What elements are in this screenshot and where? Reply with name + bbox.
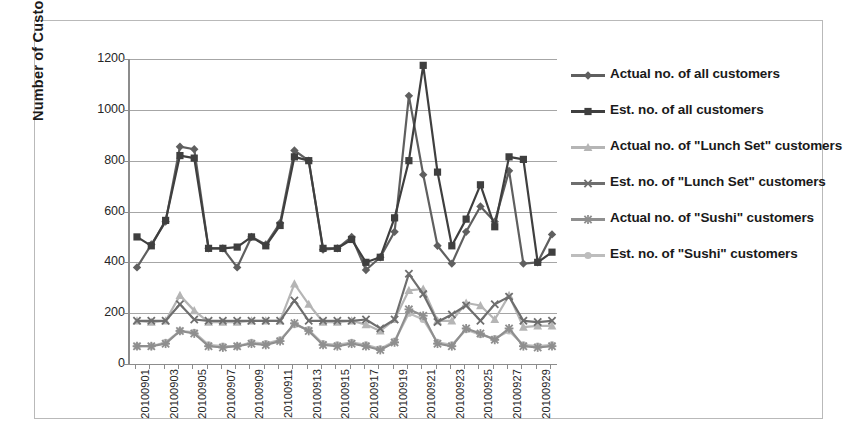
legend-marker-square-icon xyxy=(571,103,605,119)
x-tick-mark-20100903 xyxy=(164,364,165,369)
data-point xyxy=(390,338,399,347)
data-point xyxy=(162,217,169,224)
y-axis-title: Number of Customers xyxy=(30,0,46,121)
x-tick-mark-20100902 xyxy=(149,364,150,369)
data-point xyxy=(462,324,471,333)
x-tick-mark-20100910 xyxy=(264,364,265,369)
x-tick-mark-20100916 xyxy=(350,364,351,369)
x-tick-mark-20100914 xyxy=(321,364,322,369)
data-point xyxy=(176,301,183,308)
data-point xyxy=(334,245,341,252)
data-point xyxy=(290,279,299,287)
data-point xyxy=(462,228,470,236)
legend-item-est_sushi[interactable]: Est. no. of "Sushi" customers xyxy=(571,245,851,265)
x-tick-mark-20100918 xyxy=(378,364,379,369)
data-point xyxy=(548,230,556,238)
data-point xyxy=(419,311,428,320)
legend-label: Est. no. of all customers xyxy=(610,101,764,118)
x-tick-mark-20100917 xyxy=(364,364,365,369)
legend-marker-circle-icon xyxy=(571,247,605,263)
data-point xyxy=(434,169,441,176)
data-point xyxy=(405,92,413,100)
chart-legend: Actual no. of all customersEst. no. of a… xyxy=(571,65,851,281)
legend-marker-star-icon xyxy=(571,211,605,227)
data-point xyxy=(477,317,484,324)
data-point xyxy=(420,62,427,69)
x-tick-label-20100903: 20100903 xyxy=(168,369,180,419)
data-point xyxy=(191,155,198,162)
data-point xyxy=(133,233,140,240)
x-tick-label-20100919: 20100919 xyxy=(397,369,409,419)
data-point xyxy=(291,153,298,160)
legend-marker-glyph xyxy=(584,71,592,79)
legend-item-actual_all[interactable]: Actual no. of all customers xyxy=(571,65,851,85)
legend-marker-glyph xyxy=(584,215,593,224)
data-point xyxy=(147,342,156,351)
x-tick-mark-20100912 xyxy=(292,364,293,369)
data-point xyxy=(519,259,527,267)
x-tick-label-20100925: 20100925 xyxy=(482,369,494,419)
x-tick-mark-20100927 xyxy=(507,364,508,369)
x-tick-mark-20100929 xyxy=(536,364,537,369)
data-point xyxy=(534,259,541,266)
x-tick-label-20100927: 20100927 xyxy=(511,369,523,419)
data-point xyxy=(362,342,371,351)
data-point xyxy=(362,259,369,266)
legend-marker-glyph xyxy=(584,252,591,259)
series-layer xyxy=(130,59,559,364)
legend-label: Actual no. of "Lunch Set" customers xyxy=(610,137,842,154)
legend-item-est_lunch[interactable]: Est. no. of "Lunch Set" customers xyxy=(571,173,851,193)
x-tick-mark-20100907 xyxy=(221,364,222,369)
data-point xyxy=(548,249,555,256)
x-tick-mark-20100901 xyxy=(135,364,136,369)
legend-swatch-circle-icon xyxy=(571,247,605,263)
series-line xyxy=(137,65,552,262)
legend-item-actual_sushi[interactable]: Actual no. of "Sushi" customers xyxy=(571,209,851,229)
legend-swatch-square-icon xyxy=(571,103,605,119)
y-tick-label-400: 400 xyxy=(63,254,125,268)
data-point xyxy=(176,327,185,336)
data-point xyxy=(176,152,183,159)
data-point xyxy=(405,157,412,164)
data-point xyxy=(219,245,226,252)
data-point xyxy=(261,341,270,350)
x-tick-mark-20100920 xyxy=(407,364,408,369)
data-point xyxy=(161,339,170,348)
x-tick-label-20100923: 20100923 xyxy=(454,369,466,419)
data-point xyxy=(448,242,455,249)
data-point xyxy=(519,342,528,351)
x-tick-label-20100917: 20100917 xyxy=(368,369,380,419)
x-tick-mark-20100926 xyxy=(493,364,494,369)
data-point xyxy=(190,145,198,153)
legend-item-est_all[interactable]: Est. no. of all customers xyxy=(571,101,851,121)
data-point xyxy=(204,342,213,351)
legend-marker-glyph xyxy=(584,180,591,187)
data-point xyxy=(548,342,557,351)
legend-label: Actual no. of "Sushi" customers xyxy=(610,209,814,226)
data-point xyxy=(247,339,256,348)
y-tick-label-200: 200 xyxy=(63,305,125,319)
legend-item-actual_lunch[interactable]: Actual no. of "Lunch Set" customers xyxy=(571,137,851,157)
x-tick-mark-20100923 xyxy=(450,364,451,369)
x-tick-mark-20100906 xyxy=(207,364,208,369)
data-point xyxy=(491,223,498,230)
legend-label: Est. no. of "Lunch Set" customers xyxy=(610,173,826,190)
x-tick-label-20100909: 20100909 xyxy=(253,369,265,419)
data-point xyxy=(377,254,384,261)
plot-area xyxy=(128,59,557,364)
x-tick-mark-20100905 xyxy=(192,364,193,369)
data-point xyxy=(262,242,269,249)
data-point xyxy=(490,335,499,344)
legend-marker-glyph xyxy=(584,108,591,115)
data-point xyxy=(205,245,212,252)
x-tick-mark-20100909 xyxy=(249,364,250,369)
x-tick-label-20100901: 20100901 xyxy=(139,369,151,419)
legend-swatch-x-icon xyxy=(571,175,605,191)
data-point xyxy=(233,342,242,351)
x-tick-label-20100905: 20100905 xyxy=(196,369,208,419)
x-tick-mark-20100921 xyxy=(421,364,422,369)
legend-marker-glyph xyxy=(584,143,593,151)
data-point xyxy=(291,297,298,304)
chart-frame: Number of Customers 02004006008001000120… xyxy=(34,20,823,419)
x-tick-mark-20100924 xyxy=(464,364,465,369)
